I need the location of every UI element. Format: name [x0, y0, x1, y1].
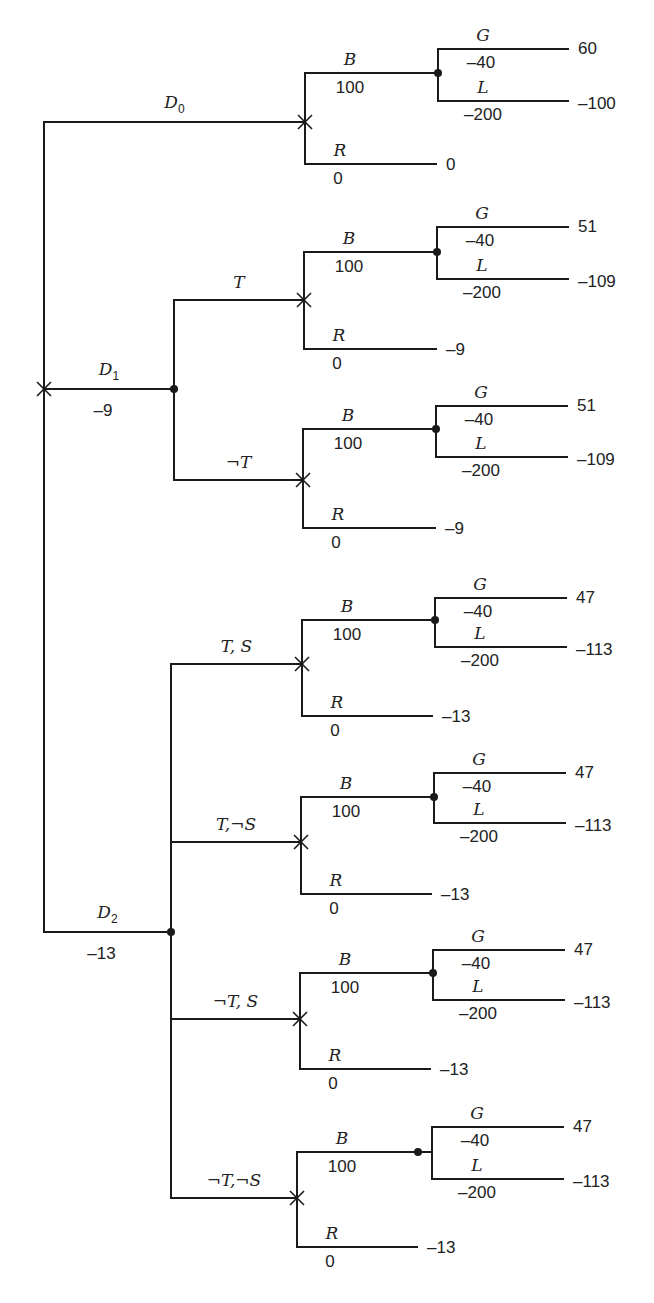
buy-value: 100: [328, 1157, 356, 1176]
good-value: –40: [464, 602, 492, 621]
good-label: G: [473, 574, 487, 594]
good-value: –40: [461, 1131, 489, 1150]
chance-node-dot-icon: [432, 425, 440, 433]
refuse-payoff: –13: [441, 885, 469, 904]
lemon-payoff: –113: [573, 1172, 610, 1191]
chance-node-dot-icon: [431, 616, 439, 624]
good-value: –40: [465, 410, 493, 429]
decision-cost-d1: –9: [94, 401, 113, 420]
buy-value: 100: [335, 257, 363, 276]
refuse-payoff: –13: [442, 707, 470, 726]
buy-value: 100: [333, 625, 361, 644]
lemon-label: L: [474, 433, 486, 453]
refuse-payoff: 0: [446, 155, 455, 174]
lemon-label: L: [475, 255, 487, 275]
lemon-payoff: –113: [574, 993, 611, 1012]
refuse-payoff: –13: [440, 1060, 468, 1079]
test-outcome-label: T, S: [221, 636, 252, 656]
buy-label: B: [342, 228, 356, 248]
good-payoff: 51: [578, 217, 597, 236]
buy-value: 100: [331, 978, 359, 997]
lemon-label: L: [470, 1155, 482, 1175]
refuse-payoff: –9: [445, 519, 464, 538]
lemon-label: L: [476, 77, 488, 97]
good-payoff: 60: [578, 39, 597, 58]
decision-label-d1: D1: [98, 359, 120, 383]
lemon-payoff: –109: [577, 450, 615, 469]
decision-label-d2: D2: [96, 902, 118, 926]
chance-node-dot-icon: [414, 1148, 422, 1156]
good-payoff: 47: [574, 940, 593, 959]
refuse-value: 0: [333, 169, 342, 188]
chance-node-dot-icon: [429, 969, 437, 977]
lemon-label: L: [473, 623, 485, 643]
refuse-value: 0: [329, 899, 338, 918]
lemon-label: L: [472, 799, 484, 819]
buy-label: B: [335, 1128, 349, 1148]
buy-label: B: [340, 596, 354, 616]
buy-value: 100: [334, 434, 362, 453]
lemon-value: –200: [459, 1004, 497, 1023]
tree-edges: [44, 49, 568, 1247]
lemon-value: –200: [464, 105, 502, 124]
decision-cost-d2: –13: [87, 944, 115, 963]
refuse-value: 0: [331, 533, 340, 552]
refuse-label: R: [330, 692, 344, 712]
lemon-payoff: –100: [578, 94, 616, 113]
good-payoff: 51: [577, 396, 596, 415]
test-chance-dot-icon: [167, 928, 175, 936]
refuse-label: R: [325, 1223, 339, 1243]
lemon-value: –200: [460, 827, 498, 846]
refuse-value: 0: [330, 721, 339, 740]
lemon-value: –200: [463, 283, 501, 302]
chance-node-dot-icon: [433, 248, 441, 256]
good-value: –40: [467, 53, 495, 72]
good-label: G: [474, 382, 488, 402]
good-label: G: [470, 1103, 484, 1123]
refuse-label: R: [331, 504, 345, 524]
refuse-value: 0: [332, 354, 341, 373]
refuse-payoff: –9: [446, 340, 465, 359]
good-payoff: 47: [573, 1117, 592, 1136]
test-outcome-label: ¬T,¬S: [207, 1170, 261, 1190]
refuse-label: R: [333, 140, 347, 160]
test-outcome-label: ¬T: [226, 452, 253, 472]
refuse-label: R: [332, 325, 346, 345]
good-label: G: [476, 25, 490, 45]
buy-label: B: [339, 773, 353, 793]
lemon-value: –200: [461, 651, 499, 670]
chance-node-dot-icon: [434, 69, 442, 77]
buy-label: B: [341, 405, 355, 425]
buy-value: 100: [336, 78, 364, 97]
refuse-payoff: –13: [427, 1238, 455, 1257]
lemon-value: –200: [458, 1183, 496, 1202]
good-value: –40: [462, 954, 490, 973]
good-payoff: 47: [575, 763, 594, 782]
test-outcome-label: ¬T, S: [213, 991, 259, 1011]
lemon-label: L: [471, 976, 483, 996]
buy-label: B: [338, 949, 352, 969]
good-payoff: 47: [576, 588, 595, 607]
refuse-value: 0: [328, 1074, 337, 1093]
lemon-payoff: –113: [575, 816, 612, 835]
lemon-value: –200: [462, 461, 500, 480]
refuse-value: 0: [325, 1252, 334, 1271]
refuse-label: R: [329, 870, 343, 890]
good-value: –40: [466, 231, 494, 250]
chance-node-dot-icon: [430, 793, 438, 801]
test-outcome-label: T: [233, 272, 246, 292]
good-label: G: [471, 926, 485, 946]
test-outcome-label: T,¬S: [216, 814, 256, 834]
buy-value: 100: [332, 802, 360, 821]
buy-label: B: [343, 49, 357, 69]
lemon-payoff: –113: [576, 640, 613, 659]
good-label: G: [472, 749, 486, 769]
decision-tree-diagram: D0D1–9T¬TD2–13T, ST,¬S¬T, S¬T,¬SB100G–40…: [0, 0, 654, 1303]
good-value: –40: [463, 777, 491, 796]
good-label: G: [475, 203, 489, 223]
refuse-label: R: [328, 1045, 342, 1065]
test-chance-dot-icon: [170, 385, 178, 393]
lemon-payoff: –109: [578, 272, 616, 291]
decision-label-d0: D0: [163, 92, 185, 116]
